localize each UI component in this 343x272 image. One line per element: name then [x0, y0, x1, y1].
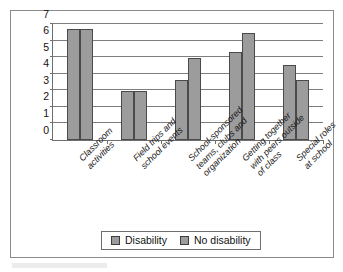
chart-legend: DisabilityNo disability — [101, 231, 261, 250]
y-axis-tick-label: 5 — [43, 41, 49, 52]
y-axis-tick-label: 3 — [43, 75, 49, 86]
scan-artifact — [12, 263, 107, 268]
y-axis-tick-label: 2 — [43, 91, 49, 102]
y-axis-tick-label: 4 — [43, 58, 49, 69]
y-axis-tick-label: 0 — [43, 124, 49, 135]
bar — [80, 29, 93, 140]
bar — [188, 58, 201, 140]
y-axis-tick-label: 6 — [43, 25, 49, 36]
chart-figure: 01234567 ClassroomactivitiesField trips … — [10, 10, 334, 258]
x-axis-category-labels: ClassroomactivitiesField trips andschool… — [32, 154, 324, 232]
legend-swatch-icon — [111, 236, 120, 245]
legend-item: Disability — [111, 235, 167, 246]
legend-label: No disability — [194, 235, 251, 246]
bar — [67, 29, 80, 140]
y-axis-tick-label: 1 — [43, 108, 49, 119]
legend-label: Disability — [125, 235, 167, 246]
bar — [121, 91, 134, 140]
y-axis-tick-label: 7 — [43, 8, 49, 19]
legend-item: No disability — [180, 235, 251, 246]
bar — [134, 91, 147, 140]
legend-swatch-icon — [180, 236, 189, 245]
